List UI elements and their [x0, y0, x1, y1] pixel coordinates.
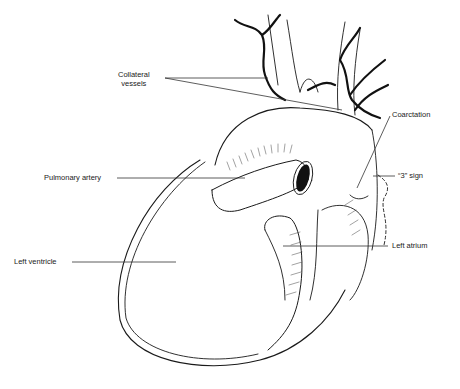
label-coarctation: Coarctation — [392, 111, 430, 120]
label-three-sign: “3” sign — [398, 172, 423, 181]
label-pulmonary-artery: Pulmonary artery — [44, 174, 101, 183]
heart-diagram: Collateral vessels Coarctation Pulmonary… — [0, 0, 460, 389]
leader-coarctation — [357, 116, 390, 188]
leader-collateral-2 — [165, 78, 342, 110]
collateral-vessels-drawing — [235, 15, 388, 118]
label-collateral-line2: vessels — [118, 80, 150, 89]
label-left-atrium: Left atrium — [392, 242, 427, 251]
label-collateral-vessels: Collateral vessels — [118, 71, 150, 88]
label-left-ventricle: Left ventricle — [14, 258, 57, 267]
heart-illustration — [0, 0, 460, 389]
